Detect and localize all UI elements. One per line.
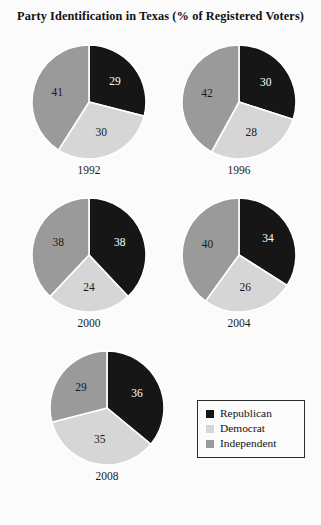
pie-1996: 3028421996 <box>180 43 298 161</box>
pie-value-republican-1992: 29 <box>109 76 121 88</box>
pie-year-label-2008: 2008 <box>48 470 166 482</box>
pie-value-democrat-1996: 28 <box>245 127 257 139</box>
pie-value-republican-2008: 36 <box>131 388 143 400</box>
chart-title: Party Identification in Texas (% of Regi… <box>0 9 321 24</box>
pie-panel-2000: 3824382000 <box>30 196 148 314</box>
pie-panel-2008: 3635292008 <box>48 349 166 467</box>
pie-2008: 3635292008 <box>48 349 166 467</box>
legend-swatch-republican <box>206 410 214 418</box>
pie-year-label-1992: 1992 <box>30 164 148 176</box>
pie-value-independent-2000: 38 <box>53 237 65 249</box>
pie-panel-1992: 2930411992 <box>30 43 148 161</box>
pie-value-independent-1996: 42 <box>201 88 213 100</box>
pie-year-label-1996: 1996 <box>180 164 298 176</box>
pie-value-democrat-2004: 26 <box>239 282 251 294</box>
legend-label-republican: Republican <box>220 408 272 419</box>
pie-value-democrat-2000: 24 <box>83 282 95 294</box>
pie-value-republican-2004: 34 <box>262 233 274 245</box>
pie-year-label-2004: 2004 <box>180 317 298 329</box>
pie-value-independent-2008: 29 <box>75 382 87 394</box>
legend-item-democrat: Democrat <box>206 422 297 436</box>
legend-item-independent: Independent <box>206 437 297 451</box>
pie-value-republican-2000: 38 <box>114 237 126 249</box>
pie-panel-2004: 3426402004 <box>180 196 298 314</box>
pie-value-independent-1992: 41 <box>52 87 64 99</box>
legend-swatch-democrat <box>206 425 214 433</box>
pie-chart-figure: Party Identification in Texas (% of Regi… <box>0 0 321 525</box>
legend-swatch-independent <box>206 440 214 448</box>
pie-graphic-2008 <box>48 349 166 467</box>
pie-2004: 3426402004 <box>180 196 298 314</box>
pie-panel-1996: 3028421996 <box>180 43 298 161</box>
pie-value-democrat-2008: 35 <box>94 435 106 447</box>
pie-1992: 2930411992 <box>30 43 148 161</box>
pie-graphic-1996 <box>180 43 298 161</box>
pie-year-label-2000: 2000 <box>30 317 148 329</box>
pie-graphic-2000 <box>30 196 148 314</box>
legend-label-democrat: Democrat <box>220 423 265 434</box>
chart-legend: Republican Democrat Independent <box>197 400 305 458</box>
legend-label-independent: Independent <box>220 438 276 449</box>
pie-value-independent-2004: 40 <box>202 239 214 251</box>
pie-graphic-2004 <box>180 196 298 314</box>
legend-item-republican: Republican <box>206 407 297 421</box>
pie-2000: 3824382000 <box>30 196 148 314</box>
pie-value-democrat-1992: 30 <box>95 127 107 139</box>
pie-graphic-1992 <box>30 43 148 161</box>
pie-value-republican-1996: 30 <box>260 77 272 89</box>
